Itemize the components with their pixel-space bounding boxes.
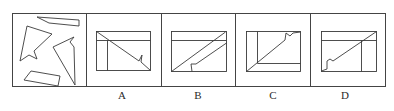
option-c-rect bbox=[247, 32, 301, 72]
option-c-diagonal bbox=[247, 32, 301, 72]
option-label-d[interactable]: D bbox=[341, 90, 349, 101]
figure-puzzle: A B C D bbox=[0, 0, 394, 111]
option-label-a[interactable]: A bbox=[118, 90, 126, 101]
option-label-c[interactable]: C bbox=[269, 90, 276, 101]
question-panel bbox=[20, 17, 79, 86]
option-label-b[interactable]: B bbox=[194, 90, 201, 101]
option-a-diagonal bbox=[97, 32, 151, 71]
fragment-right-arrow bbox=[53, 37, 75, 85]
fragment-top-sliver bbox=[37, 17, 79, 26]
option-b-diagonal-main bbox=[172, 32, 226, 72]
option-d-figure[interactable] bbox=[322, 32, 377, 72]
outer-frame bbox=[13, 14, 386, 87]
fragment-bottom-quad bbox=[24, 71, 60, 86]
option-c-figure[interactable] bbox=[247, 32, 301, 72]
fragment-left-arrow bbox=[20, 26, 52, 61]
option-d-diagonal bbox=[322, 32, 377, 72]
option-b-figure[interactable] bbox=[172, 32, 227, 72]
option-b-diagonal-notched bbox=[191, 43, 227, 72]
option-a-figure[interactable] bbox=[97, 32, 151, 71]
